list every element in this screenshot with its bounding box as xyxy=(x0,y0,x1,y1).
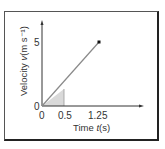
velocity-line xyxy=(42,42,99,106)
velocity-time-chart: 0 5 0 0.5 1.25 Time t(s) Velocity v(m s⁻… xyxy=(0,0,165,149)
endpoint-marker xyxy=(98,41,101,44)
x-axis-label: Time t(s) xyxy=(73,122,110,133)
y-tick-5: 5 xyxy=(34,37,40,48)
shaded-area xyxy=(42,89,64,106)
x-tick-1-25: 1.25 xyxy=(88,110,108,121)
y-axis-arrow-icon xyxy=(41,20,44,25)
x-axis-arrow-icon xyxy=(139,105,144,108)
x-tick-0: 0 xyxy=(39,110,45,121)
y-axis-label: Velocity v(m s⁻¹) xyxy=(18,26,29,96)
x-tick-0-5: 0.5 xyxy=(58,110,72,121)
